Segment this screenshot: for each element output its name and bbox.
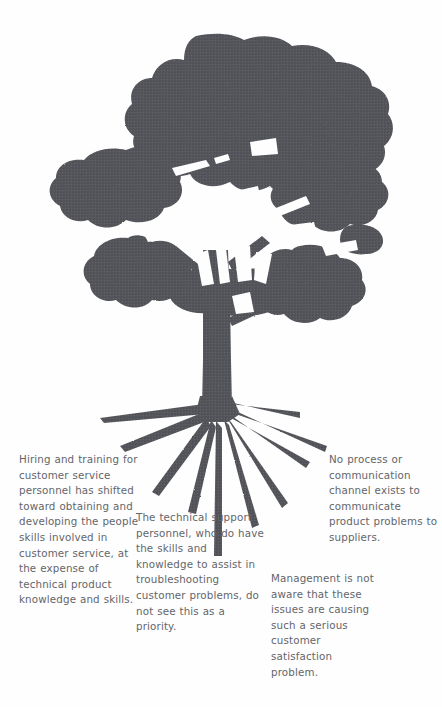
- note-hiring: Hiring and training for customer service…: [19, 452, 145, 608]
- diagram-page: Hiring and training for customer service…: [0, 0, 442, 707]
- note-technical: The technical support personnel, who do …: [136, 510, 264, 635]
- note-management: Management is not aware that these issue…: [271, 571, 375, 680]
- note-noprocess: No process or communication channel exis…: [329, 452, 439, 546]
